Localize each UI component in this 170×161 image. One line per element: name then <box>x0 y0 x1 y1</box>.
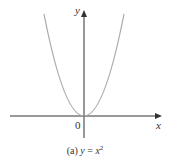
origin-label: 0 <box>75 120 81 131</box>
caption-exponent: 2 <box>100 144 104 152</box>
y-axis-label: y <box>75 5 80 16</box>
x-axis-label: x <box>156 120 161 131</box>
caption-prefix: (a) <box>67 145 81 156</box>
y-axis-arrow-icon <box>81 10 87 17</box>
caption-eq: = <box>85 145 96 156</box>
chart-caption: (a) y = x2 <box>0 144 170 156</box>
parabola-plot <box>0 0 170 161</box>
